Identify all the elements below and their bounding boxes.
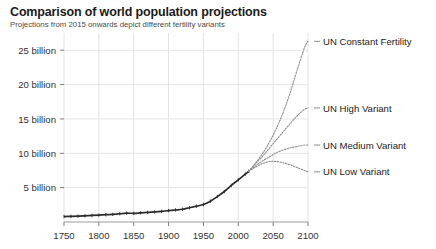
x-axis-label: 1800	[88, 230, 109, 241]
series-group	[64, 41, 308, 218]
chart-plot-area: 5 billion10 billion15 billion20 billion2…	[0, 0, 436, 249]
series-line-historical	[64, 171, 249, 216]
population-projection-chart: Comparison of world population projectio…	[0, 0, 436, 249]
x-axis-label: 1850	[123, 230, 144, 241]
gridlines-group	[64, 33, 308, 222]
y-axis-label: 25 billion	[18, 45, 56, 56]
series-line-un-low-variant	[249, 161, 308, 172]
y-axis-label: 10 billion	[18, 148, 56, 159]
y-axis-label: 5 billion	[23, 182, 56, 193]
series-annotation-label: UN Low Variant	[323, 166, 390, 177]
x-axis-label: 2000	[228, 230, 249, 241]
x-axis-label: 1900	[158, 230, 179, 241]
x-axis-label: 2100	[297, 230, 318, 241]
series-annotation-label: UN Constant Fertility	[323, 36, 412, 47]
axis-group	[60, 50, 308, 226]
y-axis-label: 15 billion	[18, 114, 56, 125]
x-axis-label: 1950	[193, 230, 214, 241]
series-annotation-label: UN High Variant	[323, 103, 392, 114]
x-axis-label: 1750	[53, 230, 74, 241]
y-axis-label: 20 billion	[18, 79, 56, 90]
series-annotations-group: UN Constant FertilityUN High VariantUN M…	[314, 36, 412, 178]
x-axis-label: 2050	[262, 230, 283, 241]
series-annotation-label: UN Medium Variant	[323, 140, 406, 151]
series-line-un-medium-variant	[249, 145, 308, 171]
